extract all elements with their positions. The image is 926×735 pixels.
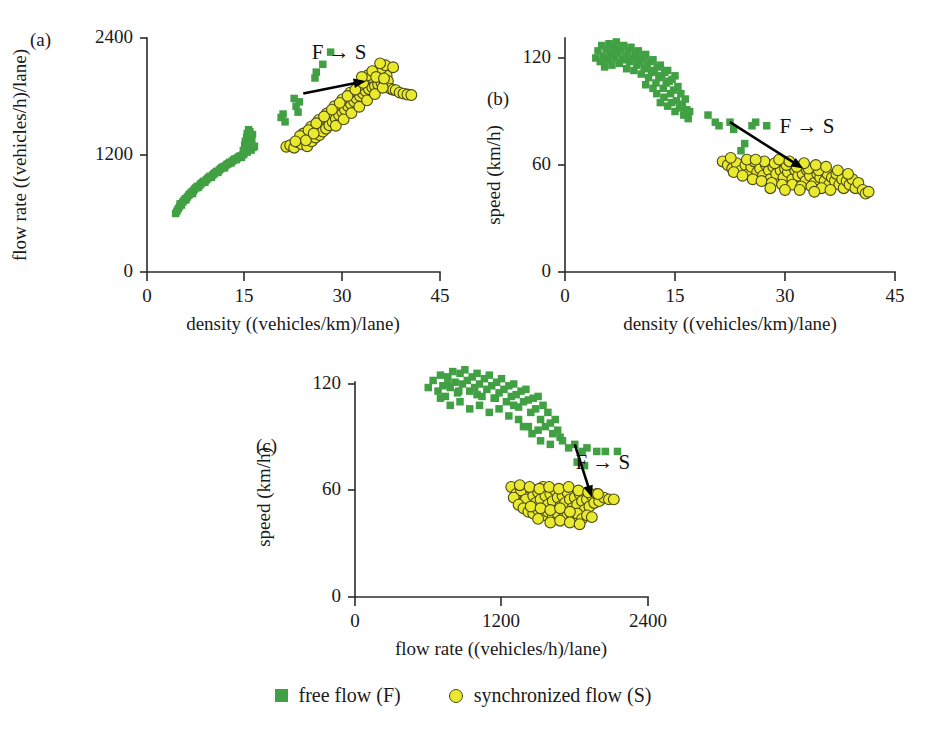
panel-b: (b) 120 60 0 0 15 3	[455, 0, 926, 345]
data-point-free-flow	[425, 384, 433, 392]
panel-a-letter: (a)	[30, 29, 51, 51]
data-point-synchronized-flow	[514, 480, 525, 491]
legend-label-synchronized-flow: synchronized flow (S)	[474, 684, 652, 707]
data-point-free-flow	[476, 402, 484, 410]
data-point-free-flow	[623, 65, 631, 73]
data-point-free-flow	[461, 366, 469, 374]
data-point-free-flow	[627, 44, 635, 52]
data-point-free-flow	[446, 402, 454, 410]
data-point-free-flow	[296, 98, 304, 106]
data-point-synchronized-flow	[825, 185, 836, 196]
data-point-synchronized-flow	[555, 503, 566, 514]
data-point-free-flow	[486, 409, 494, 417]
data-point-synchronized-flow	[544, 482, 555, 493]
data-point-free-flow	[649, 85, 657, 93]
legend-label-free-flow: free flow (F)	[299, 684, 401, 707]
data-point-free-flow	[537, 416, 545, 424]
tick-label-x: 0	[560, 285, 570, 306]
data-point-free-flow	[741, 140, 749, 148]
tick-label-y: 0	[332, 585, 342, 606]
data-point-free-flow	[684, 115, 692, 123]
panel-a-letter-group: (a)	[30, 29, 51, 51]
data-point-free-flow	[763, 122, 771, 129]
data-point-synchronized-flow	[725, 152, 736, 163]
tick-label-x: 15	[666, 285, 685, 306]
panel-a-x-ticklabels: 0 15 30 45	[142, 285, 449, 306]
data-point-synchronized-flow	[564, 517, 575, 528]
data-point-free-flow	[657, 99, 665, 107]
panel-a-annotation: F → S	[303, 40, 366, 93]
data-point-free-flow	[608, 61, 616, 69]
panel-c-synchronized-flow-series	[506, 480, 619, 530]
data-point-free-flow	[466, 405, 474, 413]
data-point-synchronized-flow	[573, 485, 584, 496]
data-point-synchronized-flow	[308, 128, 319, 139]
data-point-free-flow	[486, 371, 494, 379]
data-point-synchronized-flow	[533, 514, 544, 525]
data-point-free-flow	[682, 95, 690, 103]
data-point-free-flow	[534, 393, 542, 401]
data-point-free-flow	[547, 441, 555, 449]
circle-marker-icon	[449, 689, 463, 703]
panel-a: (a) 2400 1200 0	[0, 0, 470, 345]
data-point-free-flow	[544, 409, 552, 417]
tick-label-x: 15	[235, 285, 254, 306]
data-point-free-flow	[281, 118, 289, 126]
tick-label-x: 30	[333, 285, 352, 306]
data-point-free-flow	[437, 394, 445, 402]
data-point-free-flow	[492, 394, 500, 402]
data-point-synchronized-flow	[756, 176, 767, 187]
data-point-synchronized-flow	[821, 161, 832, 172]
traffic-flow-figure: (a) 2400 1200 0	[0, 0, 926, 735]
data-point-synchronized-flow	[765, 183, 776, 194]
data-point-free-flow	[510, 380, 517, 388]
data-point-free-flow	[551, 416, 559, 424]
panel-b-xlabel: density ((vehicles/km)/lane)	[623, 313, 837, 335]
panel-b-free-flow-series	[592, 38, 770, 154]
data-point-free-flow	[279, 110, 287, 118]
data-point-free-flow	[635, 47, 643, 55]
panel-c-ylabel: speed (km/h)	[253, 447, 275, 547]
data-point-free-flow	[601, 63, 609, 71]
data-point-free-flow	[686, 108, 694, 116]
data-point-free-flow	[715, 122, 723, 129]
data-point-free-flow	[642, 81, 650, 89]
data-point-synchronized-flow	[780, 185, 791, 196]
panel-c: (c) 120 60 0 0 1200 2400	[228, 352, 700, 682]
data-point-free-flow	[642, 51, 650, 59]
data-point-free-flow	[456, 398, 464, 406]
data-point-synchronized-flow	[563, 482, 574, 493]
data-point-synchronized-flow	[290, 136, 301, 147]
tick-label-x: 0	[350, 610, 360, 631]
legend-entry-free-flow: free flow (F)	[275, 684, 401, 707]
data-point-synchronized-flow	[809, 186, 820, 197]
data-point-free-flow	[554, 426, 562, 434]
tick-label-y: 60	[322, 478, 341, 499]
tick-label-y: 1200	[95, 143, 133, 164]
data-point-free-flow	[539, 402, 547, 410]
data-point-free-flow	[674, 83, 682, 91]
data-point-synchronized-flow	[555, 515, 566, 526]
data-point-synchronized-flow	[379, 73, 390, 84]
data-point-synchronized-flow	[388, 62, 399, 73]
tick-label-x: 1200	[482, 610, 520, 631]
data-point-synchronized-flow	[608, 494, 619, 505]
data-point-free-flow	[671, 108, 679, 116]
data-point-free-flow	[752, 118, 760, 126]
data-point-free-flow	[515, 416, 523, 424]
annotation-label: F → S	[312, 40, 367, 64]
data-point-free-flow	[520, 423, 528, 431]
annotation-label: F → S	[780, 114, 835, 138]
data-point-free-flow	[528, 430, 536, 438]
tick-label-y: 0	[542, 260, 552, 281]
panel-a-ylabel: flow rate ((vehicles/h)/lane)	[9, 49, 31, 261]
panel-a-xlabel: density ((vehicles/km)/lane)	[186, 313, 400, 335]
tick-label-y: 120	[313, 372, 342, 393]
panel-b-y-ticklabels: 120 60 0	[523, 46, 552, 281]
data-point-synchronized-flow	[545, 505, 556, 516]
panel-c-x-ticklabels: 0 1200 2400	[350, 610, 667, 631]
data-point-free-flow	[505, 412, 512, 420]
data-point-free-flow	[437, 371, 445, 379]
data-point-free-flow	[668, 99, 676, 107]
data-point-free-flow	[522, 386, 530, 394]
